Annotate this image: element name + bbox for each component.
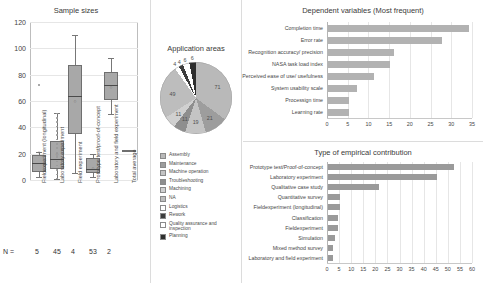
- bar-category-label: Simulation: [298, 235, 323, 241]
- bar-x-tick-label: 10: [365, 121, 371, 127]
- bar-category-label: Laboratory experiment: [270, 174, 323, 180]
- pie-legend-item[interactable]: NA: [160, 195, 236, 202]
- boxplot-mean-marker: ○: [73, 98, 76, 104]
- boxplot-data-point: [56, 117, 58, 119]
- bar-category-label: Qualitative case study: [271, 184, 323, 190]
- boxplot-outlier: [38, 84, 40, 86]
- pie-legend-item[interactable]: Quality assurance and inspection: [160, 221, 236, 232]
- bar-x-tick-label: 5: [338, 266, 341, 272]
- bar-category-label: Laboratory and field experiment: [249, 255, 324, 261]
- bar-x-axis: [327, 263, 472, 264]
- dependent-variables-plot-area: 05101520253035Completion timeError rateR…: [327, 22, 472, 118]
- legend-swatch-icon: [160, 234, 166, 240]
- pie-slice-label: 21: [207, 115, 213, 121]
- pie-legend-item[interactable]: Logistics: [160, 204, 236, 211]
- empirical-contribution-title: Type of empirical contribution: [243, 148, 483, 157]
- bar-item: [328, 49, 394, 56]
- pie-legend-label: Quality assurance and inspection: [169, 221, 236, 232]
- panel-divider-right: [241, 0, 242, 283]
- bar-x-tick-label: 60: [469, 266, 475, 272]
- bar-category-label: System usability scale: [271, 85, 323, 91]
- boxplot-n-value: 45: [53, 248, 61, 255]
- pie-legend-label: Machine operation: [169, 169, 208, 174]
- bar-x-tick-label: 40: [421, 266, 427, 272]
- legend-swatch-icon: [160, 213, 166, 219]
- boxplot-mean-marker: ○: [109, 84, 112, 90]
- legend-swatch-icon: [160, 222, 166, 228]
- pie-slice-label: 49: [169, 91, 175, 97]
- boxplot-n-value: 2: [107, 248, 111, 255]
- bar-item: [328, 174, 437, 180]
- pie-legend-label: Troubleshooting: [169, 178, 203, 183]
- boxplot-whisker: [75, 35, 76, 65]
- boxplot-gridline: [30, 22, 138, 23]
- pie-legend-item[interactable]: Maintenance: [160, 161, 236, 168]
- pie-legend-item[interactable]: Planning: [160, 233, 236, 240]
- bar-x-tick-label: 55: [457, 266, 463, 272]
- legend-swatch-icon: [160, 179, 166, 185]
- pie-legend-label: Rework: [169, 212, 185, 217]
- legend-swatch-icon: [160, 170, 166, 176]
- bar-category-label: Error rate: [301, 37, 323, 43]
- dependent-variables-title: Dependent variables (Most frequent): [243, 6, 483, 15]
- pie-legend-item[interactable]: Assembly: [160, 152, 236, 159]
- bar-item: [328, 109, 349, 116]
- pie-legend-label: Planning: [169, 233, 188, 238]
- pie-legend-item[interactable]: Troubleshooting: [160, 178, 236, 185]
- bar-x-tick-label: 35: [469, 121, 475, 127]
- boxplot-category-label: Total average: [131, 149, 137, 183]
- bar-gridline: [460, 162, 461, 263]
- empirical-contribution-plot-area: 051015202530354045505560Prototype test/P…: [327, 162, 472, 263]
- boxplot-category-label: Laboratory and field experiment: [113, 104, 119, 183]
- pie-title: Application areas: [152, 44, 240, 53]
- bar-item: [328, 225, 338, 231]
- boxplot-data-point: [56, 134, 58, 136]
- boxplot-data-point: [56, 130, 58, 132]
- boxplot-whisker: [75, 134, 76, 174]
- pie-legend-label: Logistics: [169, 204, 188, 209]
- boxplot-data-point: [56, 121, 58, 123]
- boxplot-n-value: 4: [71, 248, 75, 255]
- bar-category-label: Learning rate: [292, 109, 323, 115]
- bar-gridline: [472, 22, 473, 118]
- bar-category-label: Quantitative survey: [278, 194, 323, 200]
- bar-category-label: Recognition accuracy/ precision: [248, 49, 323, 55]
- pie-legend-item[interactable]: Machine operation: [160, 169, 236, 176]
- boxplot-n-value: 5: [35, 248, 39, 255]
- boxplot-data-point: [56, 161, 58, 163]
- bar-category-label: Fieldexperiment: [285, 225, 323, 231]
- bar-x-tick-label: 10: [348, 266, 354, 272]
- boxplot-y-tick-label: 40: [0, 124, 26, 131]
- pie-legend-item[interactable]: Machining: [160, 186, 236, 193]
- bar-item: [328, 215, 338, 221]
- bar-x-tick-label: 30: [448, 121, 454, 127]
- bar-gridline: [448, 162, 449, 263]
- bar-x-tick-label: 35: [409, 266, 415, 272]
- bar-item: [328, 245, 333, 251]
- bar-category-label: NASA task load index: [272, 61, 323, 67]
- bar-category-label: Fieldexperiment (longitudinal): [254, 204, 323, 210]
- pie-legend-label: Machining: [169, 186, 191, 191]
- boxplot-y-tick-label: 80: [0, 71, 26, 78]
- boxplot-n-label: N =: [3, 248, 14, 255]
- bar-item: [328, 25, 469, 32]
- bar-category-label: Perceived ease of use/ usefulness: [242, 73, 323, 79]
- boxplot-data-point: [56, 156, 58, 158]
- pie-slice-label: 11: [176, 111, 182, 117]
- bar-gridline: [472, 162, 473, 263]
- legend-swatch-icon: [160, 153, 166, 159]
- bar-item: [328, 184, 379, 190]
- bar-item: [328, 235, 335, 241]
- boxplot-y-tick-label: 120: [0, 19, 26, 26]
- pie-slice-label: 19: [193, 119, 199, 125]
- bar-x-axis: [327, 118, 472, 119]
- boxplot-n-value: 53: [89, 248, 97, 255]
- bar-x-tick-label: 50: [445, 266, 451, 272]
- pie-legend-label: Assembly: [169, 152, 190, 157]
- pie-legend-item[interactable]: Rework: [160, 212, 236, 219]
- boxplot-data-point: [56, 147, 58, 149]
- boxplot-category-label: Fieldexperiment (longitudinal): [41, 110, 47, 183]
- bar-item: [328, 97, 349, 104]
- bar-item: [328, 85, 357, 92]
- boxplot-category-label: Laboratory experiment: [59, 127, 65, 183]
